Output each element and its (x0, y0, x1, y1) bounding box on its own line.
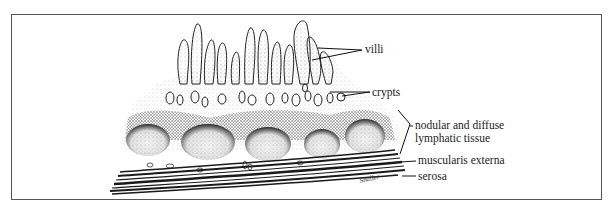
label-serosa: serosa (418, 170, 447, 183)
label-lymphatic-line2: lymphatic tissue (415, 132, 490, 145)
submucosa-vessels (147, 161, 303, 172)
label-crypts: crypts (372, 86, 400, 99)
label-muscularis-externa: muscularis externa (418, 154, 505, 167)
label-villi: villi (365, 43, 384, 56)
label-lymphatic-line1: nodular and diffuse (415, 119, 504, 132)
intestine-cross-section-illustration: Sballer (0, 0, 610, 212)
